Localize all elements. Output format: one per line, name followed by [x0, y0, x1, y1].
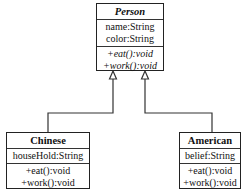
operation: +work():void [97, 60, 163, 72]
class-chinese: Chinese houseHold:String +eat():void +wo… [6, 132, 90, 189]
operation: +eat():void [180, 165, 240, 177]
chinese-inheritance-line [48, 79, 113, 132]
attribute: color:String [97, 33, 163, 45]
class-person: Person name:String color:String +eat():v… [96, 3, 164, 71]
american-inheritance-line [145, 79, 212, 132]
attributes-section: houseHold:String [7, 149, 89, 164]
attributes-section: name:String color:String [97, 20, 163, 47]
operation: +work():void [7, 177, 89, 189]
class-name: Person [97, 4, 163, 20]
operation: +eat():void [97, 48, 163, 60]
operation: +eat():void [7, 165, 89, 177]
operations-section: +eat():void +work():void [7, 164, 89, 190]
class-american: American belief:String +eat():void +work… [179, 132, 241, 189]
attribute: belief:String [180, 150, 240, 162]
attributes-section: belief:String [180, 149, 240, 164]
class-name: Chinese [7, 133, 89, 149]
attribute: houseHold:String [7, 150, 89, 162]
attribute: name:String [97, 21, 163, 33]
operations-section: +eat():void +work():void [180, 164, 240, 190]
operation: +work():void [180, 177, 240, 189]
operations-section: +eat():void +work():void [97, 47, 163, 73]
class-name: American [180, 133, 240, 149]
